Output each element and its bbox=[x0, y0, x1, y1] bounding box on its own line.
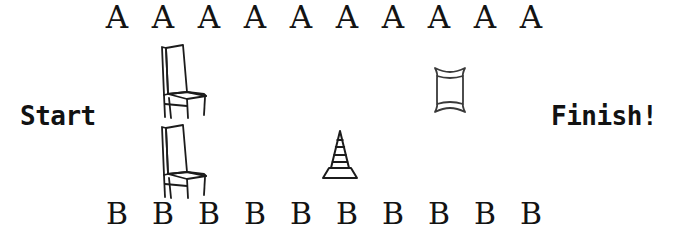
team-b-marker: B bbox=[334, 199, 360, 229]
chair-icon bbox=[152, 42, 214, 120]
team-a-marker: A bbox=[334, 2, 360, 33]
traffic-cone-icon bbox=[316, 128, 364, 182]
team-a-marker: A bbox=[426, 2, 452, 33]
team-b-marker: B bbox=[288, 199, 314, 229]
team-b-marker: B bbox=[196, 199, 222, 229]
team-a-marker: A bbox=[472, 2, 498, 33]
team-a-marker: A bbox=[196, 2, 222, 33]
chair-icon bbox=[152, 122, 214, 200]
team-a-marker-row: A A A A A A A A A A bbox=[104, 2, 544, 38]
finish-label: Finish! bbox=[551, 103, 657, 129]
team-a-marker: A bbox=[150, 2, 176, 33]
start-label: Start bbox=[20, 103, 96, 129]
team-b-marker: B bbox=[104, 199, 130, 229]
team-b-marker: B bbox=[242, 199, 268, 229]
team-a-marker: A bbox=[380, 2, 406, 33]
team-b-marker: B bbox=[426, 199, 452, 229]
team-a-marker: A bbox=[242, 2, 268, 33]
team-a-marker: A bbox=[518, 2, 544, 33]
team-b-marker-row: B B B B B B B B B B bbox=[104, 199, 544, 239]
course-diagram: A A A A A A A A A A B B B B B B B B B B … bbox=[0, 0, 680, 244]
team-a-marker: A bbox=[288, 2, 314, 33]
team-b-marker: B bbox=[518, 199, 544, 229]
team-b-marker: B bbox=[150, 199, 176, 229]
team-b-marker: B bbox=[380, 199, 406, 229]
team-b-marker: B bbox=[472, 199, 498, 229]
team-a-marker: A bbox=[104, 2, 130, 33]
pillow-icon bbox=[428, 64, 472, 116]
